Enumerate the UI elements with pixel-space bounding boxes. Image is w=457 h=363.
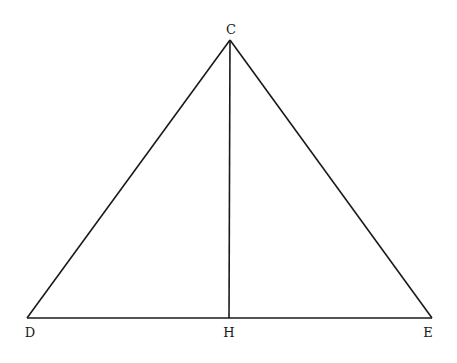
triangle-diagram: C D H E	[0, 0, 457, 363]
label-h: H	[223, 325, 234, 340]
label-e: E	[423, 325, 433, 340]
segment-cd	[27, 40, 230, 318]
label-c: C	[226, 22, 236, 37]
segment-ch	[229, 40, 230, 318]
segment-ce	[230, 40, 432, 318]
label-d: D	[25, 325, 35, 340]
